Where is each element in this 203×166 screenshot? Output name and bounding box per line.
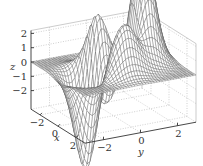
x-tick-label: 2 xyxy=(70,140,76,151)
z-tick-label: 0 xyxy=(21,57,27,68)
z-tick-label: 1 xyxy=(21,42,27,53)
surface-plot: z x y −2−1012−202−202 xyxy=(0,0,203,166)
z-tick-label: −1 xyxy=(12,71,27,82)
y-axis-label: y xyxy=(137,146,144,157)
z-tick-label: 2 xyxy=(21,28,27,39)
y-tick-label: 0 xyxy=(138,135,144,146)
x-tick-label: −2 xyxy=(30,117,45,128)
z-tick-label: −2 xyxy=(12,85,27,96)
y-tick-label: 2 xyxy=(175,128,181,139)
x-tick-label: 0 xyxy=(52,128,58,139)
y-tick-label: −2 xyxy=(97,142,112,153)
